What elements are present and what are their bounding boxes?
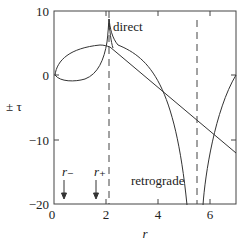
arrow-markers	[62, 180, 99, 199]
curve-direct-loop-lower	[55, 19, 109, 81]
arrow-head-icon	[62, 193, 67, 199]
annotation-direct: direct	[113, 19, 143, 34]
arrow-head-icon	[94, 193, 99, 199]
x-tick-label: 6	[207, 207, 214, 222]
y-axis-label: ± τ	[6, 99, 22, 114]
y-tick-label: 0	[43, 68, 50, 83]
x-axis-label: r	[142, 226, 148, 241]
annotation-r-minus: r₋	[62, 164, 74, 179]
y-tick-label: −10	[29, 133, 49, 148]
y-tick-label: −20	[29, 197, 49, 212]
curve-direct-decline	[110, 47, 236, 153]
annotation-r-plus: r₊	[94, 164, 106, 179]
y-tick-label: 10	[36, 4, 49, 19]
x-tick-label: 0	[49, 207, 56, 222]
x-tick-label: 4	[155, 207, 162, 222]
x-tick-label: 2	[103, 207, 110, 222]
annotation-retrograde: retrograde	[131, 173, 185, 188]
chart-figure: 10 0 −10 −20 0 2 4 6 r ± τ direct retrog…	[0, 0, 244, 245]
